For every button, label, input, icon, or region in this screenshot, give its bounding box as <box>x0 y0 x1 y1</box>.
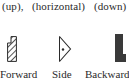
label-horizontal: (horizontal) <box>32 0 85 13</box>
label-up: (up), <box>2 0 24 13</box>
side-icon <box>58 35 72 63</box>
backward-label: Backward <box>85 68 129 81</box>
forward-label: Forward <box>0 68 37 81</box>
forward-icon <box>7 36 17 62</box>
label-down: (down) <box>94 0 126 13</box>
backward-icon <box>115 34 127 62</box>
side-label: Side <box>52 68 72 81</box>
